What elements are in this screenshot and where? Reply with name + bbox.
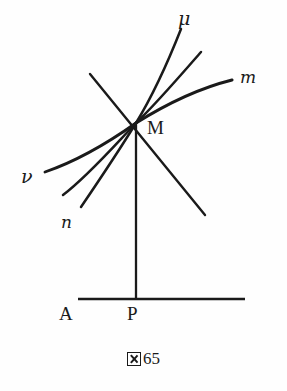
label-P: P: [127, 304, 138, 323]
label-nu: ν: [21, 167, 33, 186]
label-m: m: [240, 69, 256, 86]
figure-caption: 65: [0, 349, 287, 369]
middle-upper-curve: [136, 52, 201, 123]
nu-curve: [45, 123, 136, 172]
kanji-zu-glyph: [127, 352, 141, 366]
n-curve: [81, 123, 136, 207]
label-n: n: [61, 214, 72, 231]
label-A: A: [59, 304, 73, 323]
caption-number: 65: [143, 349, 160, 368]
figure-page: μ m M ν n A P 65: [0, 0, 287, 391]
figure-drawing: [0, 0, 287, 391]
label-mu: μ: [178, 9, 190, 28]
label-M: M: [147, 118, 164, 137]
